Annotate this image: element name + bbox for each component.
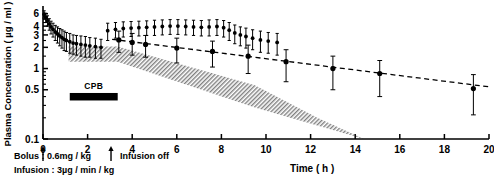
data-point (106, 29, 110, 33)
data-point (471, 86, 476, 91)
y-tick-label: 0.5 (25, 84, 39, 95)
cpb-duration-bar (70, 93, 118, 101)
data-point (222, 26, 226, 30)
y-axis-label: Plasma Concentration ( µg / ml ) (2, 2, 13, 147)
data-point (251, 36, 255, 40)
infusion-off-note: Infusion off (120, 151, 170, 161)
data-point (65, 39, 69, 43)
data-point (153, 25, 157, 29)
x-tick-label: 6 (174, 144, 180, 155)
plasma-concentration-chart: 0.10.512346 02468101214161820 CPB Plasma… (0, 0, 494, 184)
data-point (199, 25, 203, 29)
data-point (215, 25, 219, 29)
x-tick-label: 12 (305, 144, 317, 155)
data-point (174, 46, 179, 51)
data-point (207, 25, 211, 29)
data-point (184, 25, 188, 29)
data-point (68, 40, 72, 44)
x-tick-label: 16 (394, 144, 406, 155)
data-point (145, 25, 149, 29)
x-tick-label: 10 (260, 144, 272, 155)
data-point (143, 42, 148, 47)
data-point (275, 40, 279, 44)
data-point (246, 54, 251, 59)
x-tick-label: 20 (483, 144, 494, 155)
x-tick-label: 14 (350, 144, 362, 155)
data-point (283, 59, 288, 64)
data-point (244, 35, 248, 39)
data-point (259, 38, 263, 42)
data-point (83, 43, 87, 47)
y-tick-label: 1 (33, 63, 39, 74)
y-tick-label: 6 (33, 8, 39, 19)
data-point (192, 25, 196, 29)
figure-root: 0.10.512346 02468101214161820 CPB Plasma… (0, 0, 494, 184)
infusion-note: Infusion : 3µg / min / kg (14, 165, 114, 175)
data-point (168, 24, 172, 28)
x-axis-label: Time ( h ) (290, 163, 334, 174)
data-point (75, 42, 79, 46)
y-tick-label: 4 (33, 21, 39, 32)
x-tick-label: 8 (219, 144, 225, 155)
bolus-note: Bolus : 0.6mg / kg (14, 151, 91, 161)
data-point (88, 44, 92, 48)
data-point (121, 27, 125, 31)
data-point (330, 66, 335, 71)
data-point (79, 43, 83, 47)
data-point (129, 26, 133, 30)
data-point (94, 45, 98, 49)
data-point (99, 45, 103, 49)
data-point (130, 40, 135, 45)
y-tick-label: 0.1 (25, 134, 39, 145)
x-tick-label: 18 (439, 144, 451, 155)
y-tick-label: 2 (33, 42, 39, 53)
data-point (266, 39, 270, 43)
data-point (377, 71, 382, 76)
data-point (227, 28, 231, 32)
data-point (238, 33, 242, 37)
data-point (160, 25, 164, 29)
data-point (71, 41, 75, 45)
data-point (210, 49, 215, 54)
cpb-bar-label: CPB (84, 81, 103, 91)
data-point (116, 37, 121, 42)
data-point (233, 31, 237, 35)
data-point (176, 24, 180, 28)
data-point (137, 26, 141, 30)
